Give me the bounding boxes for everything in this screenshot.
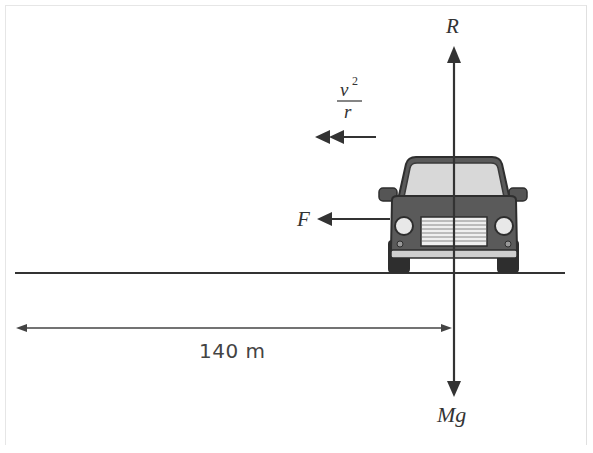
label-reaction-R: R xyxy=(446,14,459,39)
distance-label: 140 m xyxy=(199,339,266,363)
arrowhead-up-icon xyxy=(447,46,461,63)
double-arrowhead-left-icon xyxy=(315,130,330,144)
label-r: r xyxy=(344,101,351,123)
label-friction-F: F xyxy=(297,207,310,232)
label-weight-Mg: Mg xyxy=(437,402,466,428)
label-exponent: 2 xyxy=(352,74,358,89)
label-v: v xyxy=(340,79,348,101)
arrowhead-down-icon xyxy=(447,381,461,397)
arrowhead-left-icon xyxy=(317,212,332,226)
